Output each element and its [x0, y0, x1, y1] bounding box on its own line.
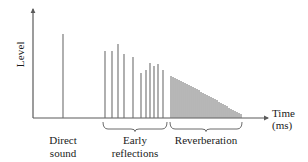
region-label-direct-sound: Direct sound: [31, 134, 95, 159]
region-label-early-reflections-line2: reflections: [103, 147, 167, 160]
y-axis-label: Level: [14, 32, 26, 76]
region-label-reverberation-line1: Reverberation: [168, 134, 244, 147]
x-axis-label-line2: (ms): [272, 120, 295, 132]
region-label-direct-sound-line2: sound: [31, 147, 95, 160]
echogram-figure: Level Time (ms) Direct sound Early refle…: [0, 0, 308, 162]
impulse-series-early-reflections: [105, 44, 163, 118]
x-axis-label: Time (ms): [272, 108, 295, 132]
region-label-early-reflections-line1: Early: [103, 134, 167, 147]
impulse-series-reverberation: [171, 76, 241, 118]
region-label-direct-sound-line1: Direct: [31, 134, 95, 147]
region-braces-group: [103, 122, 242, 132]
region-brace-reverberation: [170, 122, 242, 132]
y-axis-arrowhead: [31, 8, 36, 13]
impulse-spikes-group: [63, 34, 241, 118]
region-label-early-reflections: Early reflections: [103, 134, 167, 159]
region-label-reverberation: Reverberation: [168, 134, 244, 147]
x-axis-arrowhead: [264, 116, 269, 121]
region-brace-early: [103, 122, 167, 132]
